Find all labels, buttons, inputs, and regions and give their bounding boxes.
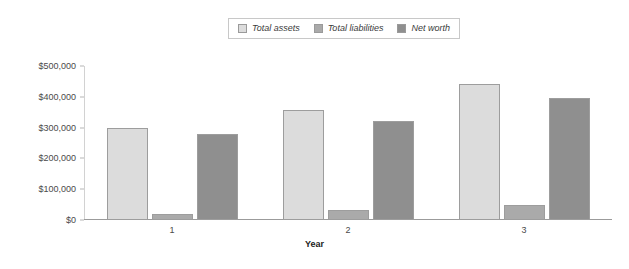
bar[interactable] xyxy=(283,110,324,220)
y-axis-tick-label: $200,000 xyxy=(38,154,84,163)
legend-item-label: Total assets xyxy=(252,24,300,33)
bar[interactable] xyxy=(197,134,238,220)
y-axis-tick-label: $100,000 xyxy=(38,185,84,194)
legend-swatch-icon xyxy=(397,24,406,33)
y-axis-tick-mark xyxy=(80,96,84,97)
bar[interactable] xyxy=(373,121,414,220)
x-axis-tick-label: 3 xyxy=(521,226,526,235)
y-axis-tick-mark xyxy=(80,189,84,190)
bar-chart: Total assetsTotal liabilitiesNet worth $… xyxy=(0,0,629,269)
bar[interactable] xyxy=(549,98,590,220)
y-axis-tick-label: $300,000 xyxy=(38,123,84,132)
y-axis-tick-label: $400,000 xyxy=(38,92,84,101)
legend-item[interactable]: Net worth xyxy=(397,24,450,33)
x-axis-tick-label: 1 xyxy=(169,226,174,235)
bar[interactable] xyxy=(504,205,545,220)
legend-item[interactable]: Total liabilities xyxy=(314,24,384,33)
y-axis-tick-mark xyxy=(80,220,84,221)
y-axis-tick-mark xyxy=(80,127,84,128)
legend-item-label: Net worth xyxy=(411,24,450,33)
legend-swatch-icon xyxy=(314,24,323,33)
x-axis-title: Year xyxy=(0,240,629,249)
bar[interactable] xyxy=(152,214,193,220)
plot-area: $0$100,000$200,000$300,000$400,000$500,0… xyxy=(84,66,612,220)
bar[interactable] xyxy=(459,84,500,220)
legend-item[interactable]: Total assets xyxy=(238,24,300,33)
y-axis-tick-mark xyxy=(80,66,84,67)
x-axis-tick-label: 2 xyxy=(345,226,350,235)
legend-swatch-icon xyxy=(238,24,247,33)
bar[interactable] xyxy=(328,210,369,220)
bar[interactable] xyxy=(107,128,148,220)
y-axis-tick-mark xyxy=(80,158,84,159)
y-axis-tick-label: $500,000 xyxy=(38,62,84,71)
chart-legend: Total assetsTotal liabilitiesNet worth xyxy=(228,18,460,39)
legend-item-label: Total liabilities xyxy=(328,24,384,33)
